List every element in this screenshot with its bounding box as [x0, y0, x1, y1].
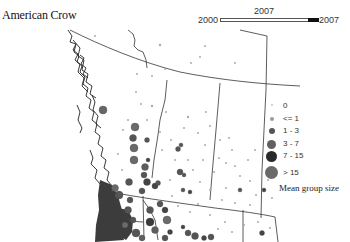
legend-item: 3 - 7	[267, 139, 347, 152]
legend-item: > 15	[267, 166, 347, 179]
legend-item: <= 1	[267, 114, 347, 127]
legend-dot-icon	[265, 166, 278, 179]
legend-dot-icon	[267, 140, 276, 149]
legend-dot-icon	[271, 104, 273, 106]
legend-dot-icon	[266, 151, 277, 162]
legend-dot-icon	[269, 128, 275, 134]
legend-item: 0	[267, 101, 347, 114]
legend-item: 7 - 15	[267, 151, 347, 164]
legend-caption: Mean group size	[279, 183, 339, 193]
map-legend: 0 <= 1 1 - 3 3 - 7 7 - 15 > 15 Mean grou…	[267, 101, 347, 178]
legend-dot-icon	[270, 117, 274, 121]
legend-item: 1 - 3	[267, 126, 347, 139]
